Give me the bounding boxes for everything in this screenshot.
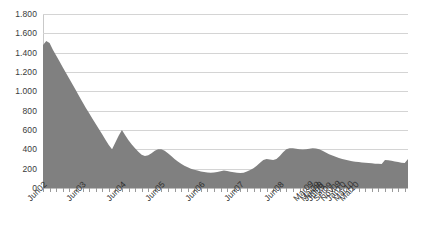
y-tick-label: 1.400	[15, 49, 37, 57]
x-tick	[365, 188, 366, 192]
x-tick	[96, 188, 97, 192]
y-tick-label: 200	[23, 165, 37, 173]
y-tick-label: 1.600	[15, 29, 37, 37]
x-tick	[56, 188, 57, 192]
x-tick	[181, 188, 182, 192]
x-tick	[214, 188, 215, 192]
x-tick	[286, 188, 287, 192]
x-tick	[175, 188, 176, 192]
x-tick	[398, 188, 399, 192]
x-tick	[359, 188, 360, 192]
y-axis: 1.8001.6001.4001.2001.0008006004002000	[0, 0, 40, 196]
x-tick	[247, 188, 248, 192]
x-tick	[168, 188, 169, 192]
x-tick	[392, 188, 393, 192]
y-tick-label: 1.000	[15, 87, 37, 95]
x-tick	[221, 188, 222, 192]
y-tick-label: 1.200	[15, 68, 37, 76]
x-tick	[405, 188, 406, 192]
area-chart: 1.8001.6001.4001.2001.0008006004002000 J…	[0, 0, 423, 240]
x-tick	[385, 188, 386, 192]
area-series	[43, 14, 408, 188]
x-tick	[378, 188, 379, 192]
y-tick-label: 600	[23, 126, 37, 134]
x-tick	[372, 188, 373, 192]
x-tick	[135, 188, 136, 192]
plot-area	[43, 14, 408, 188]
x-tick	[207, 188, 208, 192]
x-tick	[63, 188, 64, 192]
x-tick	[142, 188, 143, 192]
x-tick	[50, 188, 51, 192]
x-tick	[129, 188, 130, 192]
y-tick-label: 1.800	[15, 10, 37, 18]
x-tick	[102, 188, 103, 192]
y-tick-label: 800	[23, 107, 37, 115]
area-fill	[43, 41, 408, 188]
y-tick-label: 400	[23, 145, 37, 153]
x-tick	[254, 188, 255, 192]
x-axis-labels: Jun02Jun03Jun04Jun05Jun06Jun07Jun08Jun09…	[0, 194, 423, 240]
x-tick	[89, 188, 90, 192]
x-tick	[260, 188, 261, 192]
